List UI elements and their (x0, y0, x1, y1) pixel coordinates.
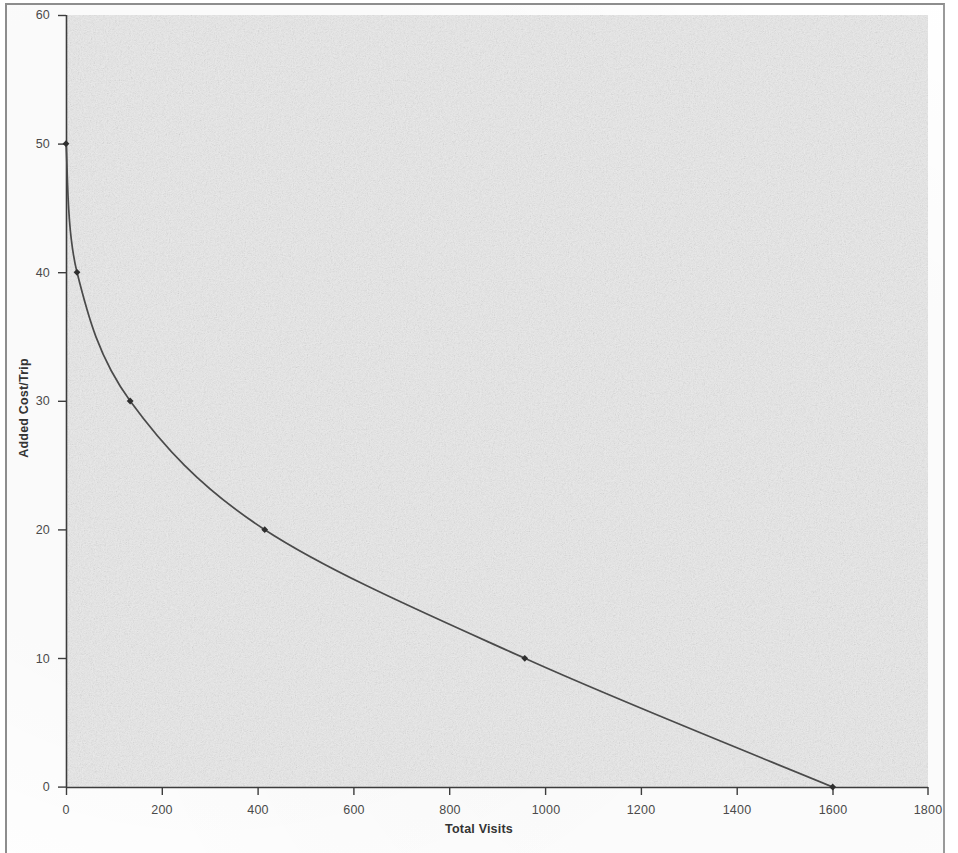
y-tick-label-0: 0 (18, 780, 50, 794)
x-tick-label-1000: 1000 (532, 803, 561, 817)
x-tick-label-1400: 1400 (723, 803, 752, 817)
x-tick-label-200: 200 (151, 803, 172, 817)
y-tick-label-40: 40 (18, 266, 50, 280)
plot-grain-coarse (66, 15, 928, 787)
y-tick-label-60: 60 (18, 8, 50, 22)
x-tick-label-400: 400 (247, 803, 268, 817)
x-tick-label-1600: 1600 (819, 803, 848, 817)
y-tick-label-50: 50 (18, 137, 50, 151)
y-axis-title: Added Cost/Trip (17, 348, 31, 468)
y-tick-label-10: 10 (18, 652, 50, 666)
x-tick-label-1800: 1800 (914, 803, 943, 817)
x-tick-label-0: 0 (62, 803, 69, 817)
x-tick-label-600: 600 (343, 803, 364, 817)
y-tick-label-20: 20 (18, 523, 50, 537)
y-axis-ticks (58, 16, 66, 788)
chart-figure: 60 50 40 30 20 10 0 0 200 400 600 800 10… (0, 0, 958, 853)
x-tick-label-800: 800 (439, 803, 460, 817)
x-axis-title: Total Visits (0, 822, 958, 836)
x-tick-label-1200: 1200 (627, 803, 656, 817)
chart-canvas (0, 0, 958, 853)
plot-area (66, 15, 928, 787)
